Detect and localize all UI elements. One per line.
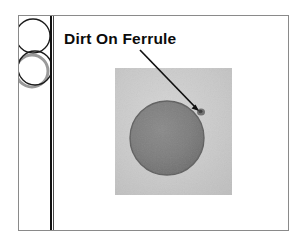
vertical-divider-hairline (53, 16, 54, 230)
upper-dark-circle (19, 19, 50, 53)
photo-grain-overlay (115, 68, 232, 195)
page-title: Dirt On Ferrule (64, 31, 176, 47)
decorative-circles-group (19, 16, 51, 230)
slide-canvas: Dirt On Ferrule (0, 0, 307, 246)
ferrule-photo-content (115, 68, 232, 195)
vertical-divider-rule (50, 16, 52, 230)
ferrule-photograph (115, 68, 232, 195)
left-decoration-band (19, 16, 51, 230)
